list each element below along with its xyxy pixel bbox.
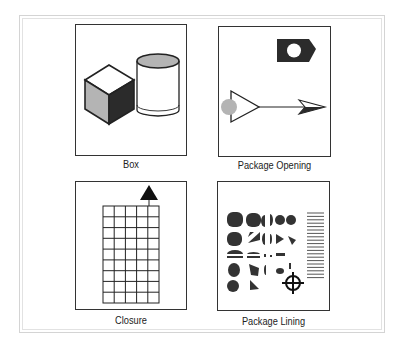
label-package-opening: Package Opening	[225, 159, 324, 171]
label-box: Box	[82, 158, 181, 170]
arrow-icon	[221, 91, 325, 122]
panel-closure	[75, 181, 187, 310]
cylinder-icon	[137, 54, 179, 116]
label-package-lining: Package Lining	[224, 315, 323, 327]
panel-package-lining	[217, 181, 330, 311]
panel-box	[75, 24, 187, 156]
label-closure: Closure	[82, 314, 181, 326]
grid-icon	[103, 199, 159, 303]
crosshair-icon	[282, 272, 304, 294]
cube-and-cylinder-icon	[76, 25, 188, 157]
dot-pattern-crosshair-icon	[218, 182, 331, 312]
line-stack	[307, 213, 324, 278]
hex-nut-icon	[277, 39, 316, 62]
triangle-icon	[140, 185, 158, 200]
opening-arrow-icon	[219, 27, 332, 158]
grid-with-triangle-icon	[76, 182, 188, 311]
cube-icon	[85, 65, 134, 124]
panel-package-opening	[218, 26, 331, 157]
